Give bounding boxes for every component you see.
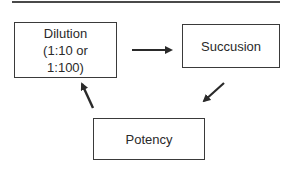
arrow-potency-to-dilution-icon bbox=[82, 84, 93, 108]
edges-layer bbox=[0, 0, 297, 172]
arrow-succusion-to-potency-icon bbox=[204, 83, 224, 101]
